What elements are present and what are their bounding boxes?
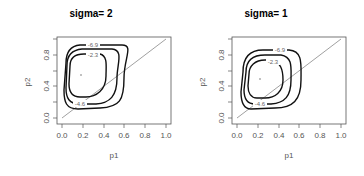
- center-point: [259, 78, 260, 79]
- contour-plot-sigma-2: 0.0 0.2 0.4 0.6 0.8 1.0 0.0 0.4 0.8 p1 p…: [0, 0, 182, 176]
- svg-text:0.0: 0.0: [231, 131, 243, 140]
- svg-text:0.4: 0.4: [42, 80, 51, 92]
- svg-text:0.0: 0.0: [42, 112, 51, 124]
- panel-sigma-1: sigma= 1 0.0 0.2 0.4 0.6 0.8 1.0: [175, 0, 357, 176]
- contour-plot-sigma-1: 0.0 0.2 0.4 0.6 0.8 1.0 0.0 0.4 0.8 p1 p…: [175, 0, 357, 176]
- contour-2.3: [69, 54, 106, 97]
- svg-text:0.8: 0.8: [42, 49, 51, 61]
- x-axis-ticks: [237, 124, 341, 128]
- svg-text:0.8: 0.8: [139, 131, 151, 140]
- svg-text:0.6: 0.6: [118, 131, 130, 140]
- x-tick-labels: 0.0 0.2 0.4 0.6 0.8 1.0: [56, 131, 172, 140]
- svg-text:0.6: 0.6: [293, 131, 305, 140]
- contour-label-inner: -2.3: [268, 59, 279, 65]
- panel-sigma-2: sigma= 2 0.0 0.2 0.4 0.6 0.8 1.0: [0, 0, 182, 176]
- svg-text:0.2: 0.2: [252, 131, 264, 140]
- contour-label-outer: -6.9: [88, 42, 99, 48]
- contour-label-middle: -4.6: [75, 101, 86, 107]
- contour-label-middle: -4.6: [255, 101, 266, 107]
- y-tick-labels: 0.0 0.4 0.8: [42, 49, 51, 124]
- y-axis-ticks: [53, 39, 57, 118]
- y-axis-label: p2: [23, 77, 32, 86]
- contour-2.3: [248, 60, 283, 98]
- svg-text:0.4: 0.4: [273, 131, 285, 140]
- svg-text:0.4: 0.4: [217, 80, 226, 92]
- x-axis-ticks: [62, 124, 166, 128]
- x-axis-label: p1: [285, 151, 294, 160]
- y-axis-label: p2: [198, 77, 207, 86]
- svg-text:0.0: 0.0: [56, 131, 68, 140]
- contour-label-outer: -6.9: [275, 47, 286, 53]
- svg-text:0.4: 0.4: [98, 131, 110, 140]
- svg-text:1.0: 1.0: [335, 131, 347, 140]
- svg-text:0.8: 0.8: [314, 131, 326, 140]
- svg-text:0.0: 0.0: [217, 112, 226, 124]
- x-tick-labels: 0.0 0.2 0.4 0.6 0.8 1.0: [231, 131, 347, 140]
- y-tick-labels: 0.0 0.4 0.8: [217, 49, 226, 124]
- svg-text:1.0: 1.0: [160, 131, 172, 140]
- svg-text:0.8: 0.8: [217, 49, 226, 61]
- center-point: [80, 74, 81, 75]
- contour-label-inner: -2.3: [88, 52, 99, 58]
- y-axis-ticks: [228, 39, 232, 118]
- x-axis-label: p1: [110, 151, 119, 160]
- svg-text:0.2: 0.2: [77, 131, 89, 140]
